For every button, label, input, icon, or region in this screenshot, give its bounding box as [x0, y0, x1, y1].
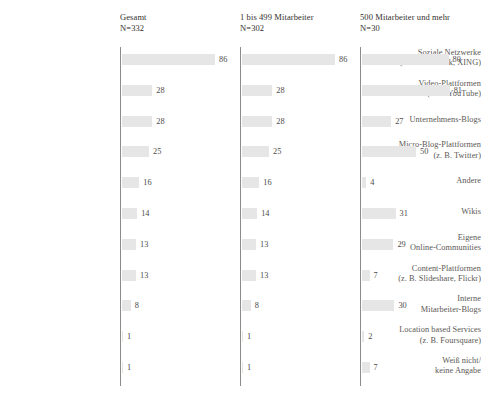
bar-value-label: 50 — [420, 146, 428, 157]
bar — [362, 362, 370, 373]
bar-value-label: 16 — [143, 177, 151, 188]
bar-value-label: 30 — [398, 300, 406, 311]
bar-value-label: 1 — [247, 331, 251, 342]
bar-value-label: 28 — [276, 116, 284, 127]
column-header-title: 500 Mitarbeiter und mehr — [360, 12, 450, 23]
bar — [242, 208, 257, 219]
bar-value-label: 25 — [153, 146, 161, 157]
bar-value-label: 8 — [255, 300, 259, 311]
bar-value-label: 28 — [156, 116, 164, 127]
bar — [362, 54, 449, 65]
bar — [122, 362, 123, 373]
bar — [122, 270, 136, 281]
bar — [242, 85, 272, 96]
bar-value-label: 1 — [127, 362, 131, 373]
bar-value-label: 13 — [140, 239, 148, 250]
bar — [362, 177, 366, 188]
bar-value-label: 86 — [219, 54, 227, 65]
chart-panel-1: 8628282516141313811 — [120, 47, 238, 386]
bar-value-label: 2 — [368, 331, 372, 342]
bar — [362, 331, 364, 342]
bar-value-label: 81 — [454, 85, 462, 96]
bar-value-label: 1 — [247, 362, 251, 373]
column-header-sample-size: N=30 — [360, 23, 450, 34]
bar — [122, 116, 152, 127]
bar — [242, 300, 251, 311]
bar-value-label: 13 — [140, 270, 148, 281]
column-header-3: 500 Mitarbeiter und mehrN=30 — [360, 12, 450, 34]
column-header-title: 1 bis 499 Mitarbeiter — [240, 12, 314, 23]
bar-value-label: 80 — [453, 54, 461, 65]
chart-panel-2: 8628282516141313811 — [240, 47, 358, 386]
bar-value-label: 4 — [370, 177, 374, 188]
bar — [362, 85, 450, 96]
bar-value-label: 25 — [273, 146, 281, 157]
bar — [122, 146, 149, 157]
bar — [122, 331, 123, 342]
bar — [122, 54, 215, 65]
bar-value-label: 8 — [135, 300, 139, 311]
bar-value-label: 13 — [260, 270, 268, 281]
bar — [242, 146, 269, 157]
bar — [362, 300, 394, 311]
bar-value-label: 86 — [339, 54, 347, 65]
bar-value-label: 1 — [127, 331, 131, 342]
bar — [122, 239, 136, 250]
bar — [242, 177, 259, 188]
bar-value-label: 31 — [400, 208, 408, 219]
bar — [362, 116, 391, 127]
bar-value-label: 27 — [395, 116, 403, 127]
bar — [362, 146, 416, 157]
column-header-sample-size: N=332 — [120, 23, 147, 34]
bar — [242, 239, 256, 250]
bar — [242, 270, 256, 281]
bar-value-label: 13 — [260, 239, 268, 250]
bar — [122, 177, 139, 188]
value-axis-line — [120, 47, 121, 386]
bar — [362, 239, 393, 250]
bar — [122, 208, 137, 219]
bar-value-label: 28 — [276, 85, 284, 96]
bar — [242, 331, 243, 342]
bar — [122, 85, 152, 96]
bar-value-label: 29 — [397, 239, 405, 250]
bar — [122, 300, 131, 311]
bar — [362, 208, 396, 219]
column-header-2: 1 bis 499 MitarbeiterN=302 — [240, 12, 314, 34]
column-header-1: GesamtN=332 — [120, 12, 147, 34]
bar — [242, 116, 272, 127]
bar-value-label: 28 — [156, 85, 164, 96]
chart-panel-3: 808127504312973027 — [360, 47, 480, 386]
value-axis-line — [240, 47, 241, 386]
bar — [242, 362, 243, 373]
bar-value-label: 16 — [263, 177, 271, 188]
value-axis-line — [360, 47, 361, 386]
grouped-bar-chart: GesamtN=3321 bis 499 MitarbeiterN=302500… — [0, 0, 481, 398]
column-header-sample-size: N=302 — [240, 23, 314, 34]
bar-value-label: 14 — [261, 208, 269, 219]
bar-value-label: 14 — [141, 208, 149, 219]
bar — [362, 270, 370, 281]
bar — [242, 54, 335, 65]
bar-value-label: 7 — [374, 362, 378, 373]
column-header-title: Gesamt — [120, 12, 147, 23]
bar-value-label: 7 — [374, 270, 378, 281]
